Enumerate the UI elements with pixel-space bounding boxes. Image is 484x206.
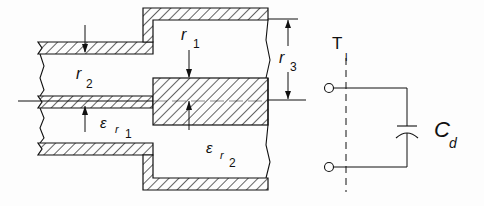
svg-text:r: r: [76, 65, 82, 82]
svg-text:r: r: [220, 149, 225, 161]
terminal-top: [325, 84, 334, 93]
svg-text:2: 2: [86, 77, 93, 91]
svg-text:1: 1: [125, 127, 132, 141]
svg-text:r: r: [115, 123, 120, 135]
label-epsilon-r2: ε r 2: [206, 139, 236, 170]
svg-text:2: 2: [229, 156, 236, 170]
small-coax-outer-bottom: [38, 143, 153, 155]
label-cd: C d: [434, 117, 458, 151]
svg-text:T: T: [332, 34, 342, 53]
large-coax-inner-conductor: [153, 78, 268, 125]
equivalent-circuit: [325, 84, 419, 172]
small-coax-outer-top: [38, 42, 153, 54]
svg-text:l: l: [345, 51, 347, 63]
svg-text:r: r: [181, 26, 187, 43]
svg-text:1: 1: [193, 37, 200, 51]
diagram-svg: r 2 r 1 r 3 ε r 1 ε r 2 T l C d: [0, 0, 484, 206]
svg-text:3: 3: [290, 60, 297, 74]
label-epsilon-r1: ε r 1: [100, 114, 132, 141]
svg-text:ε: ε: [100, 114, 107, 131]
small-coax-inner-conductor: [38, 96, 153, 108]
label-r3: r 3: [279, 49, 297, 74]
label-r1: r 1: [181, 26, 200, 51]
small-coax-break-lower: [40, 108, 44, 143]
label-r2: r 2: [76, 65, 93, 91]
svg-text:C: C: [434, 117, 450, 142]
svg-text:d: d: [449, 135, 458, 151]
small-coax-break-upper: [40, 54, 44, 96]
svg-text:ε: ε: [206, 139, 213, 156]
terminal-bottom: [325, 163, 334, 172]
coax-step-diagram: r 2 r 1 r 3 ε r 1 ε r 2 T l C d: [0, 0, 484, 206]
reference-plane-t1: T l: [332, 34, 347, 192]
svg-text:r: r: [279, 49, 285, 66]
